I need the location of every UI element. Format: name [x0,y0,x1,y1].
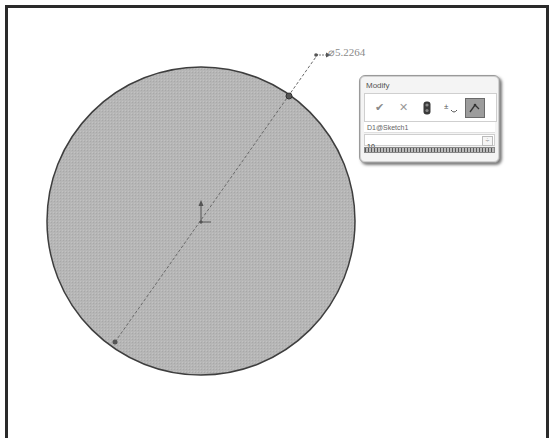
ok-button[interactable]: ✔ [369,98,389,118]
rebuild-button[interactable] [417,98,437,118]
modify-dialog: Modify ✔ ✕ ± D1@Sketch1 [359,75,500,163]
mark-for-drawing-button[interactable] [465,98,485,118]
value-field[interactable]: ÷ [364,134,495,146]
checkmark-icon: ✔ [375,101,384,114]
mark-dimension-icon [468,101,482,115]
value-thumbwheel-slider[interactable] [364,147,495,153]
circle-endpoint-top[interactable] [286,93,292,99]
close-icon: ✕ [399,101,408,114]
dialog-title: Modify [366,81,390,90]
diameter-dimension-label[interactable]: ⌀5.2264 [328,46,365,59]
traffic-light-icon [423,101,431,115]
svg-text:±: ± [444,102,449,111]
dialog-toolbar: ✔ ✕ ± [364,93,497,122]
dimension-name-label: D1@Sketch1 [364,122,495,133]
circle-endpoint-bottom[interactable] [113,340,118,345]
reverse-dimension-icon: ± [444,101,458,115]
spin-icon: ÷ [486,137,490,144]
cancel-button[interactable]: ✕ [393,98,413,118]
reverse-dimension-button[interactable]: ± [441,98,461,118]
spin-button[interactable]: ÷ [482,136,493,146]
